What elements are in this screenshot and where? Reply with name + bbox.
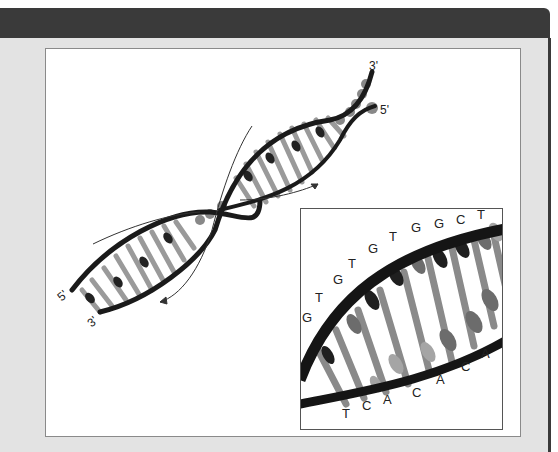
svg-text:G: G <box>368 241 378 256</box>
svg-text:C: C <box>362 398 371 413</box>
svg-text:T: T <box>389 229 397 244</box>
svg-text:T: T <box>342 406 350 421</box>
svg-text:G: G <box>411 220 421 235</box>
svg-text:T: T <box>348 256 356 271</box>
svg-text:A: A <box>481 346 490 361</box>
inset-magnified-view: G T G T G T G G C T T C A C A C A <box>300 207 510 430</box>
svg-text:G: G <box>302 310 312 325</box>
svg-text:C: C <box>456 212 465 227</box>
label-5prime-bottom: 5' <box>54 287 70 303</box>
svg-text:T: T <box>315 290 323 305</box>
label-5prime-top: 5' <box>380 103 389 117</box>
svg-text:A: A <box>436 372 445 387</box>
dna-helix-diagram: 3' 5' 5' 3' <box>0 0 558 452</box>
svg-text:G: G <box>434 216 444 231</box>
label-3prime-top: 3' <box>369 59 378 73</box>
svg-text:T: T <box>477 207 485 222</box>
svg-text:A: A <box>383 392 392 407</box>
svg-text:C: C <box>412 385 421 400</box>
svg-text:G: G <box>333 272 343 287</box>
svg-text:C: C <box>461 359 470 374</box>
label-3prime-bottom: 3' <box>84 313 100 329</box>
